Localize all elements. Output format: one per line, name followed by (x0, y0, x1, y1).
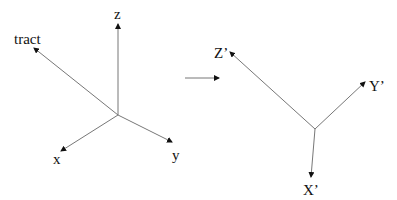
y-prime-axis (315, 82, 365, 129)
x-axis-label: x (53, 151, 61, 167)
z-prime-axis-label: Z’ (214, 45, 228, 61)
x-prime-axis-label: X’ (303, 182, 319, 198)
x-prime-axis (311, 129, 315, 177)
y-axis-label: y (172, 147, 180, 163)
left-coordinate-frame: z tract x y (14, 6, 180, 167)
y-axis (118, 115, 172, 142)
right-coordinate-frame: Z’ Y’ X’ (214, 45, 385, 198)
coordinate-transform-diagram: z tract x y Z’ Y’ X’ (0, 0, 397, 200)
z-prime-axis (230, 52, 315, 129)
z-axis-label: z (114, 6, 121, 22)
y-prime-axis-label: Y’ (369, 78, 385, 94)
tract-axis (34, 48, 118, 115)
tract-axis-label: tract (14, 31, 41, 47)
x-axis (61, 115, 118, 151)
